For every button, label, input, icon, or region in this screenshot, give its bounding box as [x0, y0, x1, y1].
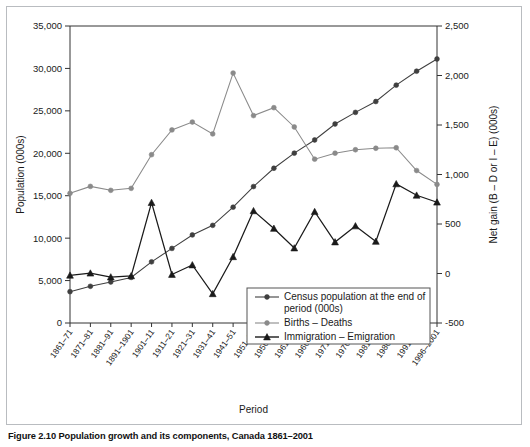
- data-point: [292, 151, 297, 156]
- figure-caption-number: Figure 2.10: [8, 431, 56, 441]
- data-point: [210, 223, 215, 228]
- left-axis-tick-label: 15,000: [33, 190, 62, 201]
- data-point: [271, 166, 276, 171]
- data-point: [394, 83, 399, 88]
- right-axis-tick-label: 0: [445, 268, 450, 279]
- data-point: [311, 208, 318, 214]
- left-axis-tick-label: 0: [57, 317, 62, 328]
- series-line: [70, 59, 437, 292]
- data-point: [169, 271, 176, 277]
- chart-svg: 05,00010,00015,00020,00025,00030,00035,0…: [0, 0, 530, 447]
- data-point: [250, 207, 257, 213]
- data-point: [149, 259, 154, 264]
- data-point: [190, 120, 195, 125]
- data-point: [312, 157, 317, 162]
- figure-caption: Figure 2.10 Population growth and its co…: [8, 431, 528, 447]
- y2-axis-title: Net gain (B – D or I – E) (000s): [488, 106, 499, 244]
- data-point: [352, 223, 359, 229]
- data-point: [413, 192, 420, 198]
- series-line: [70, 73, 437, 193]
- data-point: [68, 289, 73, 294]
- data-point: [393, 181, 400, 187]
- left-axis-tick-label: 5,000: [38, 275, 62, 286]
- data-point: [129, 186, 134, 191]
- data-point: [88, 284, 93, 289]
- data-point: [170, 246, 175, 251]
- series-2: [68, 71, 440, 196]
- chart-canvas: 05,00010,00015,00020,00025,00030,00035,0…: [0, 0, 530, 447]
- data-point: [435, 182, 440, 187]
- data-point: [292, 125, 297, 130]
- data-point: [353, 147, 358, 152]
- data-point: [373, 146, 378, 151]
- legend-marker: [265, 295, 270, 300]
- y-axis-title: Population (000s): [15, 135, 26, 213]
- series-1: [68, 57, 440, 294]
- data-point: [190, 233, 195, 238]
- data-point: [231, 71, 236, 76]
- right-axis-tick-label: 500: [445, 218, 461, 229]
- data-point: [189, 262, 196, 268]
- data-point: [435, 57, 440, 62]
- left-axis-tick-label: 20,000: [33, 148, 62, 159]
- left-axis-tick-label: 25,000: [33, 105, 62, 116]
- data-point: [170, 128, 175, 133]
- data-point: [148, 199, 155, 205]
- data-point: [88, 184, 93, 189]
- data-point: [271, 105, 276, 110]
- data-point: [231, 205, 236, 210]
- x-axis-title: Period: [239, 404, 268, 415]
- right-axis-tick-label: 2,000: [445, 70, 469, 81]
- legend-label-cont: period (000s): [284, 303, 343, 314]
- legend-label: Births – Deaths: [284, 317, 352, 328]
- data-point: [108, 280, 113, 285]
- plot-area: 05,00010,00015,00020,00025,00030,00035,0…: [15, 20, 499, 415]
- data-point: [68, 191, 73, 196]
- right-axis-tick-label: 2,500: [445, 20, 469, 31]
- series-line: [70, 184, 437, 294]
- data-point: [333, 151, 338, 156]
- data-point: [230, 253, 237, 259]
- left-axis-tick-label: 30,000: [33, 63, 62, 74]
- data-point: [333, 122, 338, 127]
- data-point: [312, 138, 317, 143]
- legend-label: Census population at the end of: [284, 291, 425, 302]
- right-axis-tick-label: 1,500: [445, 119, 469, 130]
- left-axis-tick-label: 35,000: [33, 20, 62, 31]
- data-point: [414, 69, 419, 74]
- data-point: [394, 145, 399, 150]
- legend: Census population at the end ofperiod (0…: [247, 288, 430, 344]
- legend-marker: [265, 321, 270, 326]
- left-axis-tick-label: 10,000: [33, 233, 62, 244]
- data-point: [414, 168, 419, 173]
- data-point: [373, 99, 378, 104]
- figure-page: 05,00010,00015,00020,00025,00030,00035,0…: [0, 0, 530, 447]
- data-point: [251, 184, 256, 189]
- right-axis-tick-label: 1,000: [445, 169, 469, 180]
- legend-label: Immigration – Emigration: [284, 331, 395, 342]
- figure-caption-text: Population growth and its components, Ca…: [58, 431, 312, 441]
- data-point: [108, 188, 113, 193]
- right-axis-tick-label: -500: [445, 317, 464, 328]
- data-point: [149, 152, 154, 157]
- data-point: [210, 132, 215, 137]
- data-point: [353, 110, 358, 115]
- data-point: [251, 113, 256, 118]
